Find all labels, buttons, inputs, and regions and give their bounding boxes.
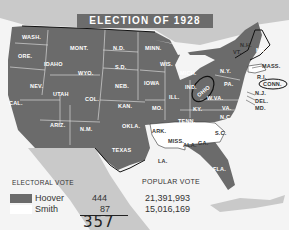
state-label-sc: S.C. <box>215 130 227 136</box>
state-label-ala: ALA. <box>183 142 197 148</box>
state-label-ind: IND. <box>185 84 197 90</box>
state-label-texas: TEXAS <box>112 147 131 153</box>
state-label-wva: W.VA. <box>207 95 223 101</box>
hoover-label: Hoover <box>35 193 64 203</box>
state-label-cal: CAL. <box>9 100 23 106</box>
electoral-vote-heading: ELECTORAL VOTE <box>12 179 74 186</box>
popular-vote-heading: POPULAR VOTE <box>142 178 200 185</box>
smith-popular: 15,016,169 <box>145 204 190 214</box>
state-label-ill: ILL. <box>169 94 180 100</box>
state-label-tenn: TENN. <box>178 118 196 124</box>
state-label-wyo: WYO. <box>78 70 93 76</box>
state-label-ore: ORE. <box>18 53 32 59</box>
state-label-mont: MONT. <box>70 45 88 51</box>
state-label-ky: KY. <box>193 106 202 112</box>
state-label-fla: FLA. <box>213 166 226 172</box>
map-title: ELECTION OF 1928 <box>77 14 213 28</box>
state-label-neb: NEB. <box>115 83 129 89</box>
state-label-col: COL. <box>85 96 99 102</box>
state-label-mass: MASS. <box>262 63 280 69</box>
hoover-electoral: 444 <box>92 193 107 203</box>
hoover-swatch <box>10 194 32 203</box>
state-label-ga: GA. <box>198 140 208 146</box>
state-label-ariz: ARIZ. <box>50 122 65 128</box>
state-label-idaho: IDAHO <box>44 61 63 67</box>
state-label-wash: WASH. <box>22 34 41 40</box>
state-label-miss: MISS. <box>168 138 184 144</box>
state-label-wis: WIS. <box>160 61 173 67</box>
state-label-ark: ARK. <box>152 128 166 134</box>
state-label-iowa: IOWA <box>144 80 159 86</box>
state-label-sd: S.D. <box>115 64 127 70</box>
state-label-utah: UTAH <box>53 91 69 97</box>
handwritten-total: 357 <box>83 213 115 230</box>
hoover-popular: 21,391,993 <box>145 193 190 203</box>
state-label-pa: PA. <box>224 81 233 87</box>
state-label-kan: KAN. <box>118 103 132 109</box>
smith-swatch <box>10 205 32 214</box>
state-label-la: LA. <box>158 158 167 164</box>
state-label-nd: N.D. <box>113 45 125 51</box>
state-label-nm: N.M. <box>80 126 92 132</box>
state-label-okla: OKLA. <box>122 123 140 129</box>
state-label-vt: VT. <box>233 49 242 55</box>
state-label-minn: MINN. <box>145 45 162 51</box>
state-label-conn: CONN. <box>263 81 282 87</box>
state-label-nh: N.H. <box>240 42 252 48</box>
state-label-mo: MO. <box>152 105 163 111</box>
hoover-states-region <box>8 22 262 170</box>
cuba-region <box>210 195 285 212</box>
state-label-ri: R.I. <box>257 74 266 80</box>
state-label-md: MD. <box>255 105 266 111</box>
state-label-nev: NEV. <box>30 83 43 89</box>
smith-label: Smith <box>35 204 58 214</box>
state-label-del: DEL. <box>255 98 268 104</box>
state-label-ny: N.Y. <box>220 68 231 74</box>
state-label-va: VA. <box>222 105 231 111</box>
state-label-me: ME. <box>256 47 266 53</box>
state-label-nj: N.J. <box>255 90 266 96</box>
state-label-nc: N.C. <box>220 114 232 120</box>
state-label-mich: MICH. <box>180 70 197 76</box>
